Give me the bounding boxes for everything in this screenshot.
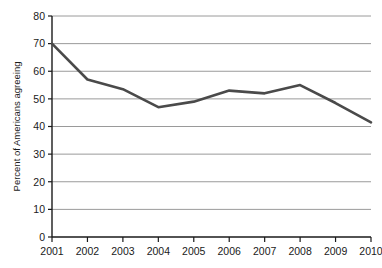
y-tick-label-30: 30 [33,148,45,160]
y-tick-label-50: 50 [33,93,45,105]
y-tick-label-80: 80 [33,10,45,22]
x-tick-label-2005: 2005 [182,245,206,257]
x-tick-label-2006: 2006 [218,245,242,257]
x-tick-label-2001: 2001 [40,245,64,257]
x-tick-label-2007: 2007 [253,245,277,257]
y-tick-label-0: 0 [39,231,45,243]
x-tick-label-2009: 2009 [324,245,348,257]
x-tick-label-2004: 2004 [147,245,171,257]
y-tick-label-70: 70 [33,37,45,49]
y-tick-label-10: 10 [33,203,45,215]
y-tick-label-60: 60 [33,65,45,77]
x-tick-label-2003: 2003 [111,245,135,257]
x-tick-label-2008: 2008 [288,245,312,257]
y-tick-label-20: 20 [33,176,45,188]
y-axis-title: Percent of Americans agreeing [11,62,22,192]
chart-background [0,0,382,268]
chart-container: 0102030405060708020012002200320042005200… [0,0,382,268]
x-tick-label-2002: 2002 [76,245,100,257]
line-chart: 0102030405060708020012002200320042005200… [0,0,382,268]
x-tick-label-2010: 2010 [359,245,382,257]
y-tick-label-40: 40 [33,120,45,132]
